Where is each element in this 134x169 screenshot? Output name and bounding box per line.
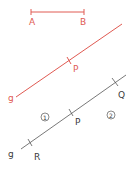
geometry-diagram: A B P g Q P R g 1 2 [0, 0, 134, 169]
label-p-gray: P [75, 117, 81, 127]
label-g-red: g [8, 93, 14, 103]
segment-ab: A B [29, 9, 86, 27]
region-1-label: 1 [43, 114, 47, 121]
region-1-marker: 1 [41, 113, 49, 121]
label-a: A [29, 17, 36, 27]
label-r: R [34, 152, 40, 162]
label-b: B [80, 17, 86, 27]
label-g-gray: g [8, 149, 14, 159]
label-q: Q [118, 90, 125, 100]
region-2-marker: 2 [107, 111, 115, 119]
label-p-red: P [73, 64, 79, 74]
red-line-g: P g [8, 24, 122, 103]
gray-line-g: Q P R g 1 2 [8, 75, 126, 162]
region-2-label: 2 [109, 112, 113, 119]
